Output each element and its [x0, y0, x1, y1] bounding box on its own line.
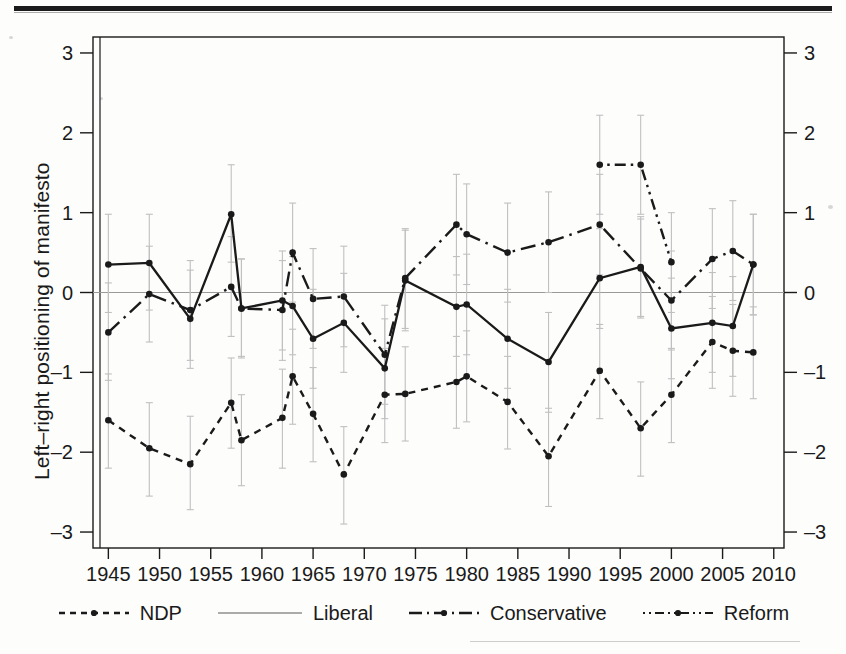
- figure-page: Left–right positioning of manifesto 3322…: [0, 0, 846, 654]
- data-point[interactable]: [709, 256, 716, 263]
- legend-label-reform: Reform: [724, 602, 790, 625]
- data-point[interactable]: [238, 305, 245, 312]
- data-point[interactable]: [637, 161, 644, 168]
- data-point[interactable]: [668, 391, 675, 398]
- y-axis-tick-label: –2: [51, 441, 73, 463]
- data-point[interactable]: [310, 336, 317, 343]
- legend-item-reform[interactable]: Reform: [641, 602, 790, 625]
- data-point[interactable]: [238, 437, 245, 444]
- data-point[interactable]: [228, 211, 235, 218]
- data-point[interactable]: [453, 304, 460, 311]
- data-point[interactable]: [730, 347, 737, 354]
- data-point[interactable]: [381, 391, 388, 398]
- y-axis-tick-label-right: 2: [804, 122, 815, 144]
- data-point[interactable]: [730, 323, 737, 330]
- data-point[interactable]: [596, 221, 603, 228]
- data-point[interactable]: [668, 325, 675, 332]
- y-axis-tick-label: 1: [62, 202, 73, 224]
- series-line: [600, 165, 672, 262]
- y-axis-tick-label: 3: [62, 42, 73, 64]
- series-reform[interactable]: [596, 161, 674, 265]
- data-point[interactable]: [596, 367, 603, 374]
- x-axis-tick-label: 1945: [86, 563, 131, 585]
- x-axis-tick-label: 1975: [393, 563, 438, 585]
- data-point[interactable]: [146, 445, 153, 452]
- data-point[interactable]: [105, 329, 112, 336]
- data-point[interactable]: [750, 261, 757, 268]
- data-point[interactable]: [105, 417, 112, 424]
- error-bars-ndp: [105, 296, 757, 524]
- x-axis-tick-label: 1995: [598, 563, 643, 585]
- data-point[interactable]: [187, 307, 194, 314]
- data-point[interactable]: [187, 461, 194, 468]
- data-point[interactable]: [463, 373, 470, 380]
- legend-item-conservative[interactable]: Conservative: [407, 602, 607, 625]
- data-point[interactable]: [668, 297, 675, 304]
- x-axis-tick-label: 1985: [496, 563, 541, 585]
- data-point[interactable]: [105, 261, 112, 268]
- data-point[interactable]: [402, 391, 409, 398]
- data-point[interactable]: [730, 248, 737, 255]
- series-ndp[interactable]: [105, 339, 757, 478]
- data-point[interactable]: [381, 365, 388, 372]
- y-axis-tick-label-right: 3: [804, 42, 815, 64]
- data-point[interactable]: [709, 320, 716, 327]
- legend-item-ndp[interactable]: NDP: [57, 602, 182, 625]
- error-bars-liberal: [105, 165, 757, 419]
- y-axis-tick-label-right: –3: [804, 521, 826, 543]
- data-point[interactable]: [228, 399, 235, 406]
- data-point[interactable]: [228, 284, 235, 291]
- series-line: [108, 342, 753, 475]
- data-point[interactable]: [504, 336, 511, 343]
- data-point[interactable]: [146, 260, 153, 267]
- data-point[interactable]: [637, 265, 644, 272]
- y-axis-tick-label-right: –1: [804, 361, 826, 383]
- x-axis-tick-label: 1970: [342, 563, 387, 585]
- data-point[interactable]: [709, 339, 716, 346]
- data-point[interactable]: [545, 239, 552, 246]
- data-point[interactable]: [453, 379, 460, 386]
- y-axis-tick-label: –1: [51, 361, 73, 383]
- data-point[interactable]: [279, 415, 286, 422]
- data-point[interactable]: [289, 303, 296, 310]
- data-point[interactable]: [463, 231, 470, 238]
- x-axis-tick-label: 1950: [137, 563, 182, 585]
- data-point[interactable]: [310, 411, 317, 418]
- data-point[interactable]: [504, 249, 511, 256]
- data-point[interactable]: [310, 296, 317, 303]
- data-point[interactable]: [637, 425, 644, 432]
- data-point[interactable]: [545, 453, 552, 460]
- data-point[interactable]: [187, 316, 194, 323]
- x-axis-tick-label: 1960: [240, 563, 285, 585]
- series-line: [108, 225, 753, 355]
- y-axis-tick-label-right: 0: [804, 282, 815, 304]
- data-point[interactable]: [341, 471, 348, 478]
- legend-swatch-liberal: [216, 605, 304, 621]
- data-point[interactable]: [289, 373, 296, 380]
- data-point[interactable]: [545, 359, 552, 366]
- data-point[interactable]: [279, 307, 286, 314]
- data-point[interactable]: [596, 161, 603, 168]
- data-point[interactable]: [504, 399, 511, 406]
- legend-item-liberal[interactable]: Liberal: [216, 602, 373, 625]
- error-bars-reform: [596, 115, 675, 312]
- legend-swatch-conservative: [407, 605, 481, 621]
- x-axis-tick-label: 2005: [700, 563, 745, 585]
- legend-swatch-reform: [641, 605, 715, 621]
- data-point[interactable]: [750, 349, 757, 356]
- legend-label-conservative: Conservative: [490, 602, 607, 625]
- data-point[interactable]: [596, 275, 603, 282]
- line-chart: 33221100–1–1–2–2–3–319451950195519601965…: [0, 0, 846, 654]
- data-point[interactable]: [341, 293, 348, 300]
- data-point[interactable]: [402, 275, 409, 282]
- data-point[interactable]: [289, 249, 296, 256]
- data-point[interactable]: [381, 351, 388, 358]
- data-point[interactable]: [453, 221, 460, 228]
- data-point[interactable]: [341, 320, 348, 327]
- data-point[interactable]: [463, 301, 470, 308]
- data-point[interactable]: [146, 291, 153, 298]
- series-liberal[interactable]: [105, 211, 757, 372]
- legend-swatch-ndp: [57, 605, 131, 621]
- data-point[interactable]: [668, 259, 675, 266]
- y-axis-tick-label: 2: [62, 122, 73, 144]
